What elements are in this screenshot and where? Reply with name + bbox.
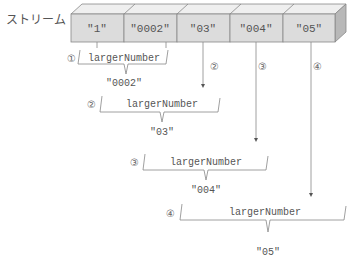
stream-value-2: "0002" xyxy=(130,23,170,35)
stream-top-face xyxy=(71,4,346,14)
step-2-result: "03" xyxy=(150,127,174,138)
step-4-result: "05" xyxy=(256,247,280,258)
step-marker-2: ② xyxy=(87,99,96,110)
stream-value-4: "004" xyxy=(239,23,272,35)
step-4-function: largerNumber xyxy=(229,207,301,218)
step-1-function: largerNumber xyxy=(88,53,160,64)
step-1-result: "0002" xyxy=(106,78,142,89)
arrow-marker-2: ② xyxy=(210,61,219,72)
arrow-marker-3: ③ xyxy=(258,61,267,72)
reduce-diagram: ストリーム "1" "0002" "03" "004" "05" ① large… xyxy=(0,0,352,265)
stream-label: ストリーム xyxy=(6,13,66,27)
step-marker-1: ① xyxy=(67,53,76,64)
step-2-function: largerNumber xyxy=(126,99,198,110)
stream-value-5: "05" xyxy=(296,23,322,35)
stream-value-1: "1" xyxy=(87,23,107,35)
step-3-function: largerNumber xyxy=(170,157,242,168)
step-marker-3: ③ xyxy=(130,157,139,168)
step-marker-4: ④ xyxy=(166,208,175,219)
arrow-marker-4: ④ xyxy=(313,61,322,72)
step-3-result: "004" xyxy=(191,185,221,196)
stream-value-3: "03" xyxy=(190,23,216,35)
